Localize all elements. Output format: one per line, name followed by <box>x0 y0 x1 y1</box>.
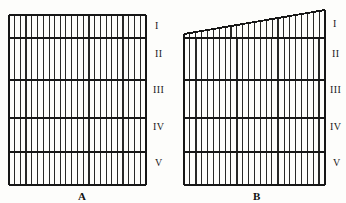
zone-numeral-b-i: I <box>333 18 337 29</box>
zone-numeral-b-ii: II <box>332 48 339 59</box>
panel-caption-b: B <box>253 190 261 202</box>
zone-numeral-b-iv: IV <box>330 121 341 132</box>
zone-numeral-a-i: I <box>155 20 159 31</box>
zone-numeral-b-v: V <box>333 157 341 168</box>
zone-numeral-a-v: V <box>155 157 163 168</box>
scanned-figure <box>0 0 346 203</box>
panel-caption-a: A <box>78 190 86 202</box>
zone-numeral-b-iii: III <box>330 84 341 95</box>
zone-numeral-a-iv: IV <box>153 121 164 132</box>
zone-numeral-a-ii: II <box>155 48 162 59</box>
zone-numeral-a-iii: III <box>153 84 164 95</box>
figure-drawing <box>0 0 346 203</box>
